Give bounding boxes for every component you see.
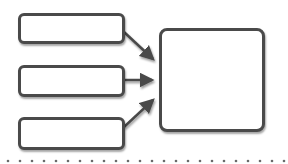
diagram-canvas	[0, 0, 288, 164]
arrow-input-1-to-output	[124, 32, 153, 59]
input-box-1	[18, 13, 125, 44]
input-box-3	[18, 117, 125, 150]
input-box-2	[18, 65, 125, 97]
output-box	[159, 28, 265, 132]
dotted-separator	[7, 160, 286, 163]
arrow-input-3-to-output	[124, 100, 153, 127]
